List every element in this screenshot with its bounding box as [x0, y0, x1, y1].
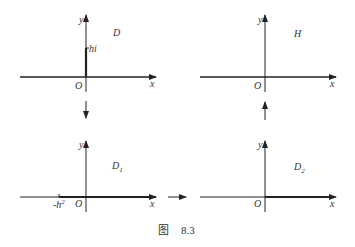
origin-label: O: [254, 80, 261, 91]
x-label: x: [149, 78, 155, 89]
region-label: H: [293, 28, 302, 39]
x-label: x: [329, 198, 335, 209]
x-label: x: [329, 78, 335, 89]
panel-d: y x O hi D: [20, 14, 156, 92]
y-label: y: [78, 139, 84, 150]
region-label: D2: [293, 161, 305, 175]
panel-d2: y x O D2: [200, 139, 336, 212]
panel-d1: y x O -h2 D1: [20, 139, 156, 212]
origin-label: O: [75, 80, 82, 91]
y-label: y: [78, 14, 84, 25]
panel-h: y x O H: [200, 14, 336, 92]
y-label: y: [257, 14, 263, 25]
caption-prefix: 图: [158, 224, 169, 236]
region-label: D: [112, 27, 121, 38]
figure-8-3: y x O hi D y x O H y x O -h2 D1 y x O D: [0, 0, 355, 247]
point-label: -h2: [53, 198, 65, 210]
caption-number: 8.3: [181, 224, 195, 236]
origin-label: O: [254, 198, 261, 209]
region-label: D1: [111, 160, 123, 174]
x-label: x: [149, 198, 155, 209]
point-label: hi: [89, 43, 97, 54]
origin-label: O: [75, 198, 82, 209]
y-label: y: [257, 139, 263, 150]
